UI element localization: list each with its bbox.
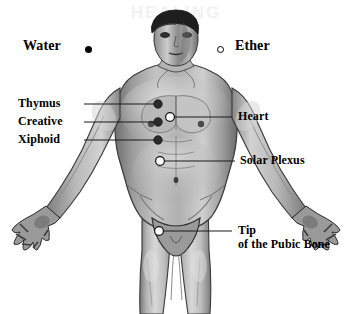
left-hand [12,206,60,250]
point-thymus [154,100,162,108]
label-tip-line-2: of the Pubic Bone [238,238,350,252]
legend-label-ether: Ether [235,38,270,54]
label-solar-plexus: Solar Plexus [240,154,305,167]
label-heart: Heart [238,110,268,123]
point-heart [166,113,175,122]
label-tip-line-1: Tip [238,224,350,238]
point-xiphoid [154,136,162,144]
anatomy-diagram: HEALING [0,0,355,314]
legend-marker-ether-hollow-dot [217,46,224,53]
legend-label-water: Water [23,38,61,54]
label-tip-of-the-pubic-bone: Tip of the Pubic Bone [238,224,350,252]
legend-marker-water-filled-dot [85,46,92,53]
head [151,10,198,66]
point-creative [154,118,162,126]
label-thymus: Thymus [18,97,61,110]
label-xiphoid: Xiphoid [18,133,60,146]
label-creative: Creative [18,115,63,128]
point-solar-plexus [156,157,165,166]
point-tip-pubic-bone [155,227,164,236]
torso [115,62,237,232]
